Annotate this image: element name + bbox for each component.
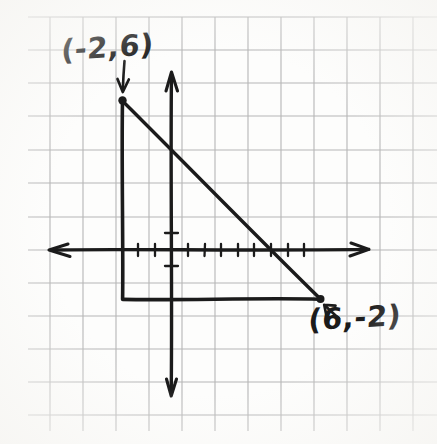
segment-hypotenuse xyxy=(123,102,321,300)
graph-page: (-2,6) (6,-2) xyxy=(0,0,437,444)
label-point-b: (6,-2) xyxy=(307,298,402,337)
triangle-group xyxy=(122,101,320,300)
label-point-a-group: (-2,6) xyxy=(60,27,154,68)
grid-lines xyxy=(28,17,437,431)
x-axis-line xyxy=(52,249,366,250)
label-point-a: (-2,6) xyxy=(60,27,154,68)
point-marker-a xyxy=(118,96,126,104)
label-point-b-group: (6,-2) xyxy=(307,298,402,337)
axes-group xyxy=(49,72,369,396)
graph-canvas: (-2,6) (6,-2) xyxy=(0,0,437,444)
arrow-shaft-a xyxy=(123,61,125,90)
annotation-arrow-a xyxy=(118,61,129,92)
segment-horizontal-leg xyxy=(123,299,320,300)
segment-vertical-leg xyxy=(122,101,123,299)
